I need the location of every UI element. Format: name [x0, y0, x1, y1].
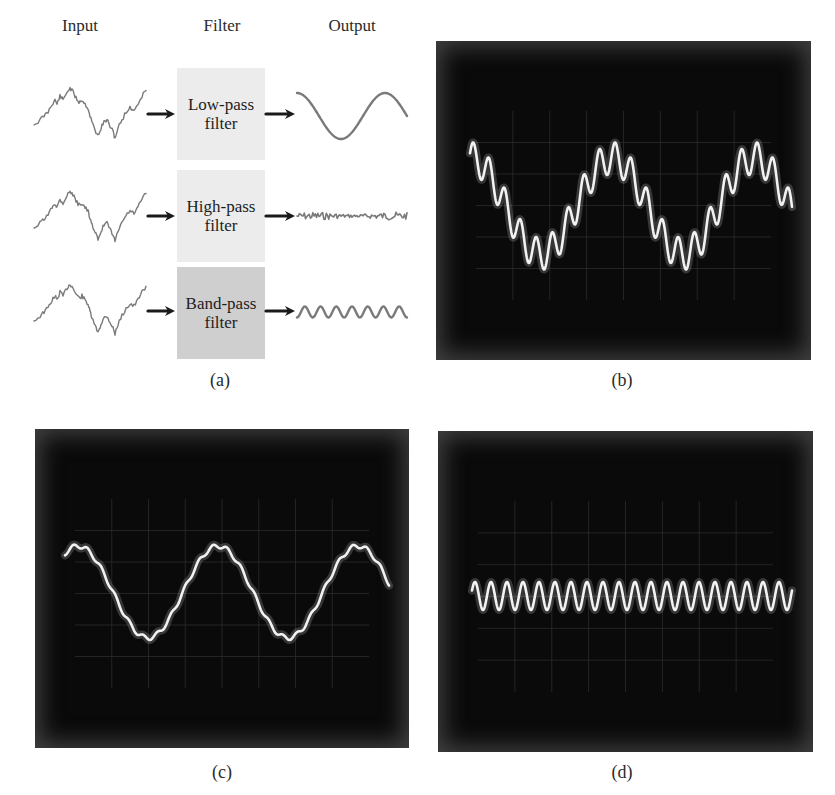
caption-b: (b): [612, 370, 633, 391]
graticule-grid: [476, 111, 771, 300]
oscilloscope-screen-c: [35, 429, 409, 748]
waveform-d: [438, 431, 813, 752]
high-pass-output-icon: [297, 212, 407, 219]
input-waveform-icon: [34, 191, 146, 241]
band-pass-output-icon: [297, 307, 407, 318]
caption-a: (a): [210, 370, 230, 391]
waveform-b: [436, 41, 811, 360]
oscilloscope-screen-d: [438, 431, 813, 752]
input-waveform-icon: [34, 285, 146, 335]
oscilloscope-trace: [65, 545, 389, 640]
input-waveform-icon: [34, 88, 146, 138]
caption-c: (c): [212, 762, 232, 783]
low-pass-output-icon: [297, 93, 407, 139]
waveform-c: [35, 429, 409, 748]
caption-d: (d): [612, 762, 633, 783]
oscilloscope-screen-b: [436, 41, 811, 360]
